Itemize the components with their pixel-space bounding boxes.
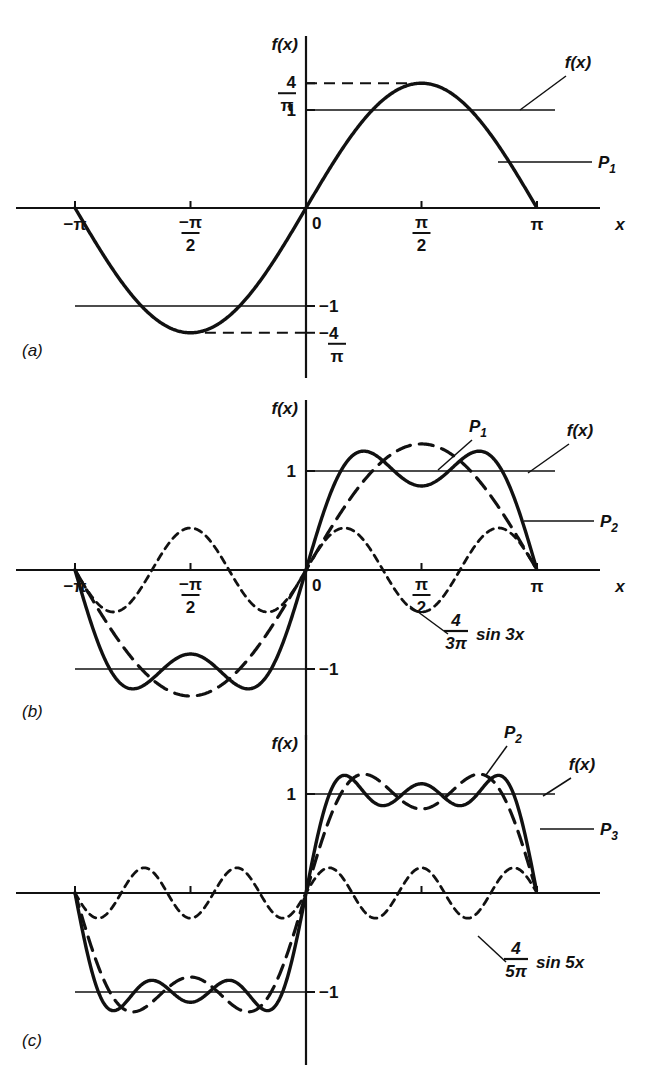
- x-tick-label: 0: [312, 576, 321, 595]
- panel-letter-2: (c): [22, 1031, 42, 1050]
- y-tick-label: −1: [319, 660, 338, 679]
- x-tick-label: π: [530, 577, 543, 596]
- x-tick-label-numerator: π: [415, 575, 428, 594]
- x-axis-caption: x: [614, 215, 626, 234]
- callout-label: f(x): [567, 421, 594, 440]
- callout-fraction-denominator: 5π: [505, 962, 527, 981]
- callout-label: P2: [600, 512, 618, 535]
- x-tick-label-denominator: 2: [186, 598, 195, 617]
- x-tick-label-numerator: −π: [179, 575, 202, 594]
- callout-p3-c: P3: [540, 820, 618, 843]
- callout-fx-b: f(x): [528, 421, 594, 473]
- callout-fx-c: f(x): [543, 755, 596, 796]
- callout-label: f(x): [565, 53, 592, 72]
- callout-fraction-numerator: 4: [510, 939, 521, 958]
- callout-label: f(x): [569, 755, 596, 774]
- callout-fraction-denominator: 3π: [445, 634, 467, 653]
- y-tick-label-numerator: −4: [319, 324, 339, 343]
- leader-line: [478, 936, 506, 962]
- y-axis-caption: f(x): [272, 734, 299, 753]
- y-tick-label: −1: [319, 983, 338, 1002]
- callout-fraction-tail: sin 3x: [476, 625, 526, 644]
- callout-p2-c: P2: [486, 723, 522, 775]
- y-tick-label-denominator: π: [330, 347, 343, 366]
- x-tick-label: π: [530, 215, 543, 234]
- callout-fraction-tail: sin 5x: [536, 953, 586, 972]
- x-tick-label: 0: [312, 214, 321, 233]
- leader-line: [486, 746, 507, 775]
- panel-a: −π−π20π2πf(x)x4π1−1−4π: [16, 35, 626, 378]
- fourier-figure-svg: −π−π20π2πf(x)x4π1−1−4π−π−π20π2πf(x)x1−1f…: [0, 0, 652, 1089]
- callout-fifth-harmonic-c: 45πsin 5x: [478, 936, 586, 981]
- callout-fx-a: f(x): [520, 53, 592, 110]
- figure-container: −π−π20π2πf(x)x4π1−1−4π−π−π20π2πf(x)x1−1f…: [0, 0, 652, 1089]
- panel-b: −π−π20π2πf(x)x1−1: [16, 399, 626, 740]
- x-tick-label-denominator: 2: [417, 236, 426, 255]
- y-tick-label: −1: [319, 297, 338, 316]
- y-axis-caption: f(x): [272, 399, 299, 418]
- leader-line: [543, 778, 571, 796]
- panel-c: f(x)1−1: [16, 734, 600, 1065]
- callout-label: P1: [469, 417, 487, 440]
- y-axis-caption: f(x): [272, 35, 299, 54]
- x-tick-label-numerator: π: [415, 213, 428, 232]
- y-tick-label: 1: [287, 462, 296, 481]
- panel-letter-0: (a): [22, 341, 43, 360]
- callout-label: P1: [598, 153, 616, 176]
- y-tick-label: 1: [287, 101, 296, 120]
- callout-third-harmonic-b: 43πsin 3x: [410, 606, 526, 653]
- leader-line: [528, 444, 569, 473]
- callout-label: P2: [504, 723, 522, 746]
- panel-letter-1: (b): [22, 702, 43, 721]
- callout-p2-b: P2: [524, 512, 618, 535]
- x-tick-label-denominator: 2: [186, 236, 195, 255]
- y-tick-label: 1: [287, 785, 296, 804]
- leader-line: [520, 76, 566, 110]
- x-axis-caption: x: [614, 577, 626, 596]
- callout-fraction-numerator: 4: [450, 611, 461, 630]
- y-tick-label-numerator: 4: [287, 73, 297, 92]
- x-tick-label-numerator: −π: [179, 213, 202, 232]
- callout-label: P3: [600, 820, 618, 843]
